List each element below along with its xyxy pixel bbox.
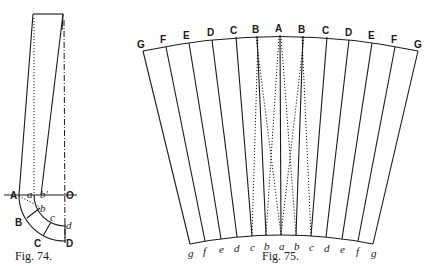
fig75-line-F-f-left — [166, 47, 205, 241]
fig74-segment-Bb — [27, 208, 40, 218]
top-label-F-left: F — [160, 34, 166, 45]
fig75-dotted-A-b-right — [281, 36, 296, 235]
label-D: D — [66, 238, 73, 249]
top-label-D-left: D — [207, 27, 214, 38]
bottom-label-f-left: f — [203, 245, 208, 257]
fig75-line-D-d-right — [326, 40, 349, 237]
top-label-G-right: G — [414, 39, 422, 50]
label-b: b — [40, 202, 46, 214]
top-label-D-right: D — [345, 27, 352, 38]
fig74-outer-line — [19, 14, 33, 195]
label-d: d — [66, 219, 72, 231]
fig75-line-C-c-right — [311, 37, 327, 236]
bottom-label-c-left: c — [250, 241, 255, 253]
label-A: A — [10, 190, 17, 201]
bottom-label-d-left: d — [234, 242, 240, 254]
fig75-dotted-B-c-left — [252, 37, 258, 236]
fig74-axis-line — [64, 20, 65, 241]
fig75: G F E D C B A B C D E F G g f e d c b a … — [137, 23, 422, 263]
fig75-line-G-g-right — [373, 51, 418, 244]
top-label-C-left: C — [230, 25, 237, 36]
fig75-line-E-e-right — [342, 43, 372, 239]
fig75-line-B-b-left — [257, 36, 266, 235]
fig74-caption: Fig. 74. — [15, 249, 52, 263]
fig74-axis-top — [62, 14, 63, 30]
bottom-label-e-left: e — [219, 243, 224, 255]
top-label-A: A — [275, 23, 282, 34]
bottom-label-f-right: f — [356, 245, 361, 257]
bottom-label-c-right: c — [309, 241, 314, 253]
bottom-label-g-right: g — [371, 247, 377, 259]
top-label-B-left: B — [252, 24, 259, 35]
fig74-slanted-line-b — [41, 14, 63, 195]
fig75-caption: Fig. 75. — [262, 249, 299, 263]
label-a: a — [27, 188, 33, 200]
top-label-B-right: B — [298, 24, 305, 35]
top-label-C-right: C — [322, 25, 329, 36]
diagram-canvas: A a b' O b c d B C D Fig. 74. — [0, 0, 428, 266]
fig75-dotted-B-c-right — [302, 37, 311, 236]
label-O: O — [66, 190, 74, 201]
fig75-line-A-a — [280, 35, 281, 235]
label-b-prime: b' — [40, 188, 49, 200]
top-label-F-right: F — [391, 34, 397, 45]
top-label-E-right: E — [368, 30, 375, 41]
fig75-line-C-c-left — [236, 37, 252, 236]
fig75-dotted-B-a-right — [281, 37, 304, 235]
label-C: C — [34, 238, 41, 249]
fig75-line-B-b-right — [296, 36, 303, 235]
label-c: c — [50, 211, 55, 223]
label-B: B — [15, 217, 22, 228]
fig75-line-F-f-right — [358, 47, 395, 241]
bottom-label-d-right: d — [324, 242, 330, 254]
top-label-E-left: E — [183, 30, 190, 41]
fig74-segment-Cc — [43, 222, 51, 236]
top-label-G-left: G — [137, 39, 145, 50]
fig75-line-G-g-left — [143, 51, 190, 244]
bottom-label-e-right: e — [340, 243, 345, 255]
fig74: A a b' O b c d B C D Fig. 74. — [4, 14, 77, 263]
bottom-label-g-left: g — [188, 247, 194, 259]
